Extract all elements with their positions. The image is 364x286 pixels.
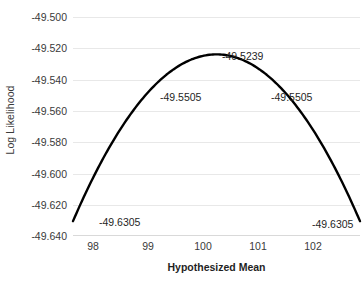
x-tick-label: 100	[194, 240, 212, 252]
plot-area	[73, 17, 360, 236]
y-axis-tick-labels: -49.500 -49.520 -49.540 -49.560 -49.580 …	[18, 0, 70, 286]
y-tick-label: -49.600	[31, 168, 67, 180]
x-tick-label: 101	[249, 240, 267, 252]
data-label-101: -49.5505	[271, 91, 312, 103]
y-tick-label: -49.500	[31, 11, 67, 23]
data-label-99: -49.5505	[160, 91, 201, 103]
y-axis-title-text: Log Likelihood	[4, 85, 16, 154]
data-label-102: -49.6305	[312, 218, 353, 230]
y-tick-label: -49.620	[31, 199, 67, 211]
y-tick-label: -49.640	[31, 230, 67, 242]
x-axis-title: Hypothesized Mean	[73, 261, 360, 273]
y-tick-label: -49.580	[31, 136, 67, 148]
y-tick-label: -49.540	[31, 74, 67, 86]
x-tick-label: 102	[304, 240, 322, 252]
x-axis-tick-labels: 98 99 100 101 102	[73, 240, 360, 256]
y-tick-label: -49.560	[31, 105, 67, 117]
y-axis-title: Log Likelihood	[2, 0, 18, 240]
data-label-100: -49.5239	[222, 50, 263, 62]
x-tick-label: 99	[142, 240, 154, 252]
log-likelihood-chart: Log Likelihood -49.500 -49.520 -49.540 -…	[0, 0, 364, 286]
y-tick-label: -49.520	[31, 42, 67, 54]
likelihood-curve	[73, 17, 360, 236]
x-tick-label: 98	[87, 240, 99, 252]
data-label-98: -49.6305	[99, 216, 140, 228]
